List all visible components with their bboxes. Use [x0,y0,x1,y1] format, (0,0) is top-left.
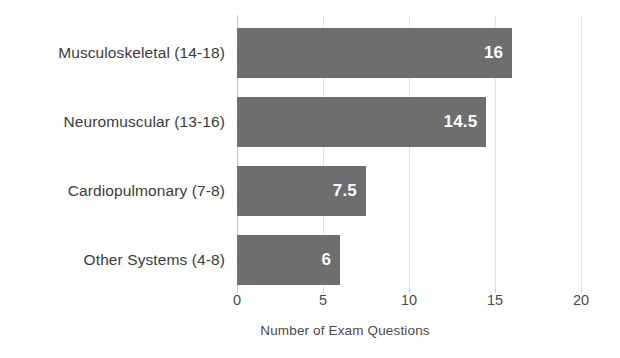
tick-label-5: 5 [293,292,353,308]
bar-value-other-systems: 6 [322,250,332,270]
bar-other-systems[interactable]: 6 [237,235,340,285]
bar-musculoskeletal[interactable]: 16 [237,28,512,78]
tick-label-15: 15 [465,292,525,308]
bar-chart: Musculoskeletal (14-18) Neuromuscular (1… [0,0,620,358]
x-axis-title-text: Number of Exam Questions [260,323,429,338]
bar-cardiopulmonary[interactable]: 7.5 [237,166,366,216]
category-label-neuromuscular: Neuromuscular (13-16) [0,113,225,131]
category-label-other-systems: Other Systems (4-8) [0,251,225,269]
bar-value-cardiopulmonary: 7.5 [333,181,357,201]
bar-neuromuscular[interactable]: 14.5 [237,97,486,147]
tick-label-10: 10 [379,292,439,308]
bar-value-neuromuscular: 14.5 [444,112,478,132]
x-axis-title: Number of Exam Questions [0,323,620,338]
gridline-20 [581,15,582,289]
tick-label-20: 20 [551,292,611,308]
tick-label-0: 0 [207,292,267,308]
bar-value-musculoskeletal: 16 [484,43,503,63]
category-label-cardiopulmonary: Cardiopulmonary (7-8) [0,182,225,200]
category-label-musculoskeletal: Musculoskeletal (14-18) [0,44,225,62]
plot-area: 16 14.5 7.5 6 [237,15,581,289]
